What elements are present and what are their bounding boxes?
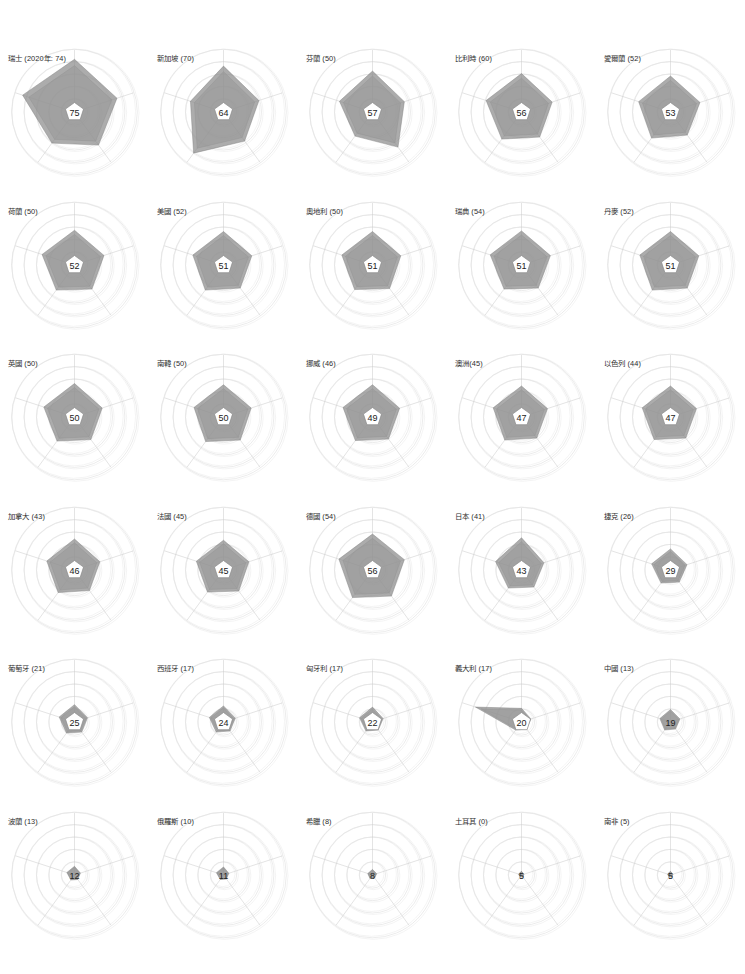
radar-panel-label: 瑞典 (54) xyxy=(455,205,485,216)
radar-panel: 捷克 (26)29 xyxy=(596,486,745,639)
radar-panel-grid: 瑞士 (2020年: 74)75新加坡 (70)64芬蘭 (50)57比利時 (… xyxy=(0,28,745,943)
radar-center-value: 20 xyxy=(516,718,526,728)
radar-center-value: 24 xyxy=(218,718,228,728)
radar-center-value: 51 xyxy=(516,260,526,270)
radar-panel-label: 西班牙 (17) xyxy=(157,662,194,673)
radar-panel-label: 日本 (41) xyxy=(455,510,485,521)
radar-panel-label: 葡萄牙 (21) xyxy=(8,662,45,673)
radar-panel-label: 英國 (50) xyxy=(8,357,38,368)
radar-center-value: 64 xyxy=(218,108,228,118)
radar-center-value: 29 xyxy=(665,565,675,575)
radar-panel-label: 挪威 (46) xyxy=(306,357,336,368)
radar-panel-label: 奧地利 (50) xyxy=(306,205,343,216)
radar-panel: 以色列 (44)47 xyxy=(596,333,745,486)
radar-panel-label: 南韓 (50) xyxy=(157,357,187,368)
radar-panel: 南韓 (50)50 xyxy=(149,333,298,486)
radar-panel: 荷蘭 (50)52 xyxy=(0,181,149,334)
radar-panel-label: 義大利 (17) xyxy=(455,662,492,673)
radar-plot: 11 xyxy=(149,791,298,944)
radar-plot: 22 xyxy=(298,638,447,791)
radar-panel: 義大利 (17)20 xyxy=(447,638,596,791)
radar-center-value: 45 xyxy=(218,565,228,575)
radar-panel: 新加坡 (70)64 xyxy=(149,28,298,181)
radar-panel-label: 荷蘭 (50) xyxy=(8,205,38,216)
radar-panel-label: 以色列 (44) xyxy=(604,357,641,368)
radar-panel-label: 土耳其 (0) xyxy=(455,815,488,826)
radar-panel: 德國 (54)56 xyxy=(298,486,447,639)
radar-panel-label: 加拿大 (43) xyxy=(8,510,45,521)
radar-plot: 51 xyxy=(596,181,745,334)
radar-panel-label: 新加坡 (70) xyxy=(157,52,194,63)
radar-center-value: 51 xyxy=(665,260,675,270)
radar-center-value: 51 xyxy=(218,260,228,270)
radar-panel: 英國 (50)50 xyxy=(0,333,149,486)
radar-center-value: 12 xyxy=(69,870,79,880)
radar-panel-label: 芬蘭 (50) xyxy=(306,52,336,63)
radar-plot: 50 xyxy=(0,333,149,486)
radar-plot: 50 xyxy=(149,333,298,486)
radar-panel: 挪威 (46)49 xyxy=(298,333,447,486)
radar-plot: 45 xyxy=(149,486,298,639)
radar-panel: 比利時 (60)56 xyxy=(447,28,596,181)
radar-panel: 丹麥 (52)51 xyxy=(596,181,745,334)
radar-center-value: 53 xyxy=(665,108,675,118)
radar-panel: 俄羅斯 (10)11 xyxy=(149,791,298,944)
radar-panel-label: 澳洲(45) xyxy=(455,357,483,368)
radar-center-value: 56 xyxy=(367,565,377,575)
radar-plot: 53 xyxy=(596,28,745,181)
radar-panel: 中國 (13)19 xyxy=(596,638,745,791)
radar-center-value: 47 xyxy=(665,413,675,423)
radar-panel-label: 波蘭 (13) xyxy=(8,815,38,826)
radar-panel: 匈牙利 (17)22 xyxy=(298,638,447,791)
radar-panel-label: 美國 (52) xyxy=(157,205,187,216)
radar-panel: 法國 (45)45 xyxy=(149,486,298,639)
radar-panel-label: 愛爾蘭 (52) xyxy=(604,52,641,63)
radar-panel: 波蘭 (13)12 xyxy=(0,791,149,944)
radar-panel-label: 捷克 (26) xyxy=(604,510,634,521)
radar-plot: 52 xyxy=(0,181,149,334)
radar-center-value: 11 xyxy=(219,870,228,880)
radar-panel: 美國 (52)51 xyxy=(149,181,298,334)
radar-panel: 南非 (5)5 xyxy=(596,791,745,944)
radar-plot: 25 xyxy=(0,638,149,791)
radar-plot: 20 xyxy=(447,638,596,791)
radar-panel-label: 中國 (13) xyxy=(604,662,634,673)
radar-plot: 8 xyxy=(298,791,447,944)
radar-plot: 43 xyxy=(447,486,596,639)
radar-panel: 日本 (41)43 xyxy=(447,486,596,639)
radar-panel: 愛爾蘭 (52)53 xyxy=(596,28,745,181)
radar-center-value: 5 xyxy=(519,870,524,880)
radar-panel: 葡萄牙 (21)25 xyxy=(0,638,149,791)
radar-axis-spokes xyxy=(314,813,432,925)
radar-axis-spokes xyxy=(463,813,581,925)
radar-plot: 5 xyxy=(596,791,745,944)
radar-panel: 瑞士 (2020年: 74)75 xyxy=(0,28,149,181)
radar-panel: 澳洲(45)47 xyxy=(447,333,596,486)
radar-panel-label: 法國 (45) xyxy=(157,510,187,521)
radar-plot: 56 xyxy=(298,486,447,639)
radar-center-value: 5 xyxy=(668,870,673,880)
radar-plot: 75 xyxy=(0,28,149,181)
radar-plot: 51 xyxy=(298,181,447,334)
radar-plot: 49 xyxy=(298,333,447,486)
radar-plot: 47 xyxy=(596,333,745,486)
radar-center-value: 75 xyxy=(69,108,79,118)
radar-center-value: 8 xyxy=(370,870,375,880)
radar-panel-label: 比利時 (60) xyxy=(455,52,492,63)
radar-panel-label: 丹麥 (52) xyxy=(604,205,634,216)
radar-panel-label: 希臘 (8) xyxy=(306,815,332,826)
radar-center-value: 47 xyxy=(516,413,526,423)
radar-center-value: 22 xyxy=(367,718,377,728)
radar-plot: 57 xyxy=(298,28,447,181)
radar-panel-label: 南非 (5) xyxy=(604,815,630,826)
radar-center-value: 50 xyxy=(218,413,228,423)
radar-plot: 29 xyxy=(596,486,745,639)
radar-panel-label: 德國 (54) xyxy=(306,510,336,521)
radar-center-value: 49 xyxy=(367,413,377,423)
radar-plot: 51 xyxy=(447,181,596,334)
radar-center-value: 46 xyxy=(69,565,79,575)
radar-plot: 24 xyxy=(149,638,298,791)
radar-panel: 土耳其 (0)5 xyxy=(447,791,596,944)
radar-panel: 西班牙 (17)24 xyxy=(149,638,298,791)
radar-plot: 5 xyxy=(447,791,596,944)
